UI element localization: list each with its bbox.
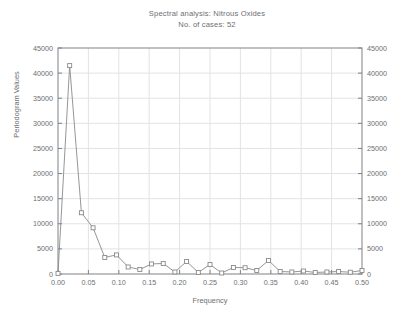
svg-text:35000: 35000 [367, 94, 387, 103]
svg-text:15000: 15000 [367, 194, 387, 203]
svg-text:35000: 35000 [33, 94, 53, 103]
svg-text:30000: 30000 [33, 119, 53, 128]
svg-text:5000: 5000 [367, 244, 383, 253]
svg-text:30000: 30000 [367, 119, 387, 128]
svg-text:15000: 15000 [33, 194, 53, 203]
svg-text:0.05: 0.05 [81, 278, 95, 287]
svg-text:0.10: 0.10 [112, 278, 126, 287]
svg-text:40000: 40000 [367, 69, 387, 78]
svg-text:0.15: 0.15 [142, 278, 156, 287]
svg-text:5000: 5000 [37, 244, 53, 253]
svg-text:0.40: 0.40 [294, 278, 308, 287]
svg-text:0.45: 0.45 [325, 278, 339, 287]
svg-text:0.00: 0.00 [51, 278, 65, 287]
gridlines [58, 48, 362, 274]
svg-text:25000: 25000 [33, 144, 53, 153]
spectral-analysis-chart: Spectral analysis: Nitrous Oxides No. of… [0, 0, 414, 317]
svg-text:0.25: 0.25 [203, 278, 217, 287]
svg-text:0.30: 0.30 [233, 278, 247, 287]
svg-text:0.20: 0.20 [173, 278, 187, 287]
svg-text:0.50: 0.50 [355, 278, 369, 287]
svg-text:10000: 10000 [367, 219, 387, 228]
svg-text:0.35: 0.35 [264, 278, 278, 287]
svg-text:40000: 40000 [33, 69, 53, 78]
svg-text:20000: 20000 [367, 169, 387, 178]
svg-text:10000: 10000 [33, 219, 53, 228]
svg-text:20000: 20000 [33, 169, 53, 178]
svg-text:45000: 45000 [367, 44, 387, 53]
svg-text:45000: 45000 [33, 44, 53, 53]
plot-svg: 0050005000100001000015000150002000020000… [0, 0, 414, 317]
svg-text:25000: 25000 [367, 144, 387, 153]
